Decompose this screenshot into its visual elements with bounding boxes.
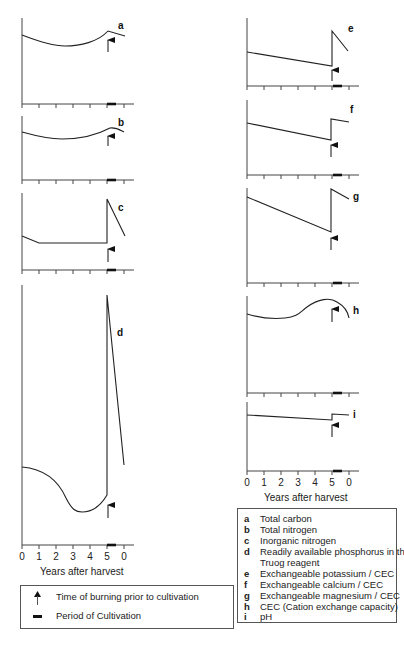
curve-e <box>247 31 348 66</box>
panel-letter-h: h <box>353 305 359 316</box>
curve-d <box>22 295 124 512</box>
panel-letter-f: f <box>350 104 354 115</box>
legend-label-cultivation: Period of Cultivation <box>56 610 141 621</box>
curve-b <box>22 128 124 139</box>
panel-c-inorganic-nitrogen: c <box>22 193 134 274</box>
panel-letter-c: c <box>118 202 124 213</box>
x-tick-label: 0 <box>244 477 250 488</box>
panel-letter-a: a <box>118 20 124 31</box>
curve-i <box>247 414 349 420</box>
left-x-axis-labels: 0 1 2 3 4 5 0 Years after harvest <box>19 551 127 577</box>
panel-a-total-carbon: a <box>22 18 134 108</box>
x-tick-label: 3 <box>70 551 76 562</box>
panel-letter-g: g <box>353 191 359 202</box>
x-axis-title: Years after harvest <box>264 492 348 503</box>
x-tick-label: 0 <box>346 477 352 488</box>
panel-g-magnesium: g <box>247 188 359 287</box>
x-tick-label: 0 <box>121 551 127 562</box>
right-x-axis-labels: 0 1 2 3 4 5 0 Years after harvest <box>244 477 352 503</box>
x-tick-label: 4 <box>87 551 93 562</box>
x-tick-label: 3 <box>295 477 301 488</box>
x-tick-label: 2 <box>278 477 284 488</box>
panel-e-potassium: e <box>247 18 359 90</box>
legend-label-burning: Time of burning prior to cultivation <box>56 591 199 602</box>
up-arrow-icon <box>33 591 42 605</box>
x-tick-label: 5 <box>329 477 335 488</box>
x-axis-title: Years after harvest <box>40 566 124 577</box>
curve-c <box>22 199 125 243</box>
symbol-legend: Time of burning prior to cultivation Per… <box>20 585 234 629</box>
x-tick-label: 2 <box>53 551 59 562</box>
curve-h <box>247 299 349 318</box>
bar-icon <box>33 615 42 618</box>
panel-i-ph: i <box>247 402 359 475</box>
panel-d-phosphorus: d <box>22 285 134 549</box>
panel-letter-e: e <box>348 23 354 34</box>
curve-g <box>247 189 349 232</box>
x-tick-label: 5 <box>104 551 110 562</box>
x-tick-label: 0 <box>19 551 25 562</box>
panel-f-calcium: f <box>247 100 359 179</box>
panel-letter-i: i <box>353 409 356 420</box>
panel-b-total-nitrogen: b <box>22 116 134 184</box>
x-tick-label: 1 <box>261 477 267 488</box>
variable-key: aTotal carbon bTotal nitrogen cInorganic… <box>237 508 397 623</box>
panel-letter-b: b <box>118 117 124 128</box>
x-tick-label: 4 <box>312 477 318 488</box>
panel-letter-d: d <box>117 327 123 338</box>
curve-a <box>22 31 125 46</box>
x-tick-label: 1 <box>36 551 42 562</box>
panel-h-cec: h <box>247 296 359 397</box>
curve-f <box>247 119 349 140</box>
